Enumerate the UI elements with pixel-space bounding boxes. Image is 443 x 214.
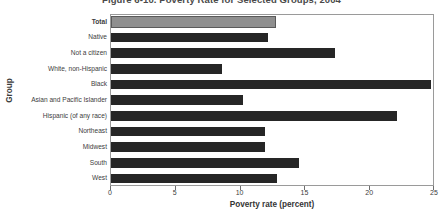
bar-row xyxy=(111,140,433,156)
y-axis-label: White, non-Hispanic xyxy=(14,65,107,73)
bar-row xyxy=(111,46,433,62)
bar-row xyxy=(111,124,433,140)
bar-row xyxy=(111,62,433,78)
y-axis-label: Native xyxy=(14,33,107,41)
y-axis-label: Midwest xyxy=(14,143,107,151)
y-axis-tick-labels: TotalNativeNot a citizenWhite, non-Hispa… xyxy=(14,14,107,186)
bar-row xyxy=(111,171,433,187)
y-axis-label: Total xyxy=(14,18,107,26)
chart-title: Figure 6-10. Poverty Rate for Selected G… xyxy=(0,0,443,5)
bar xyxy=(111,64,222,74)
x-axis-tick-label: 25 xyxy=(422,189,443,196)
bar xyxy=(111,142,265,152)
x-axis-tick-label: 10 xyxy=(228,189,252,196)
bar-row xyxy=(111,109,433,125)
x-axis-tick-label: 15 xyxy=(292,189,316,196)
y-axis-label: Not a citizen xyxy=(14,49,107,57)
bar xyxy=(111,33,268,43)
y-axis-label: Northeast xyxy=(14,127,107,135)
y-axis-label: Hispanic (of any race) xyxy=(14,112,107,120)
x-axis-tick-label: 20 xyxy=(357,189,381,196)
bar xyxy=(111,16,276,27)
x-axis-title: Poverty rate (percent) xyxy=(110,200,434,209)
bar xyxy=(111,174,277,184)
y-axis-title: Group xyxy=(5,61,14,121)
bar-row xyxy=(111,93,433,109)
y-axis-label: South xyxy=(14,159,107,167)
bar-row xyxy=(111,31,433,47)
plot-area xyxy=(110,14,434,186)
x-axis-tick-label: 0 xyxy=(98,189,122,196)
x-axis-tick-label: 5 xyxy=(163,189,187,196)
bar xyxy=(111,80,431,90)
bars-layer xyxy=(111,15,433,185)
bar-row xyxy=(111,15,433,31)
bar xyxy=(111,127,265,137)
bar xyxy=(111,111,397,121)
bar-row xyxy=(111,156,433,172)
bar xyxy=(111,158,299,168)
y-axis-label: Asian and Pacific Islander xyxy=(14,96,107,104)
bar xyxy=(111,48,335,58)
bar-row xyxy=(111,78,433,94)
y-axis-label: West xyxy=(14,174,107,182)
x-axis-tick-labels: 0510152025 xyxy=(110,189,434,200)
y-axis-label: Black xyxy=(14,80,107,88)
bar xyxy=(111,95,243,105)
